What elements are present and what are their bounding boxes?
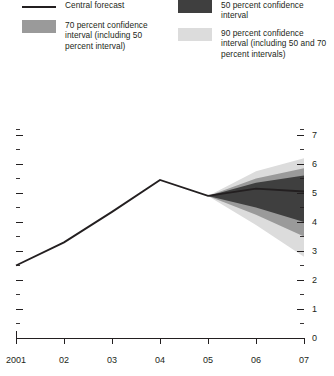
y-axis-tick-label: 5	[312, 188, 317, 198]
fan-chart-svg: 012345672001020304050607	[0, 84, 334, 376]
fan-chart-figure: Central forecast 70 percent confidence i…	[0, 0, 334, 376]
legend-label-central-forecast: Central forecast	[65, 0, 124, 10]
x-axis-tick-label: 06	[251, 355, 261, 365]
legend-item-central-forecast: Central forecast	[22, 0, 172, 13]
ci-70-swatch-icon	[22, 20, 56, 33]
legend-column-right: 50 percent confidence interval 90 percen…	[178, 0, 330, 66]
legend-label-ci-50: 50 percent confidence interval	[221, 0, 330, 21]
x-axis-tick-label: 04	[155, 355, 165, 365]
y-axis-tick-label: 6	[312, 159, 317, 169]
legend-item-ci-50: 50 percent confidence interval	[178, 0, 330, 21]
x-axis-tick-label: 05	[203, 355, 213, 365]
y-axis-tick-label: 2	[312, 275, 317, 285]
legend-label-ci-70: 70 percent confidence interval (includin…	[65, 20, 172, 51]
legend-label-ci-90: 90 percent confidence interval (includin…	[221, 28, 330, 59]
legend-item-ci-90: 90 percent confidence interval (includin…	[178, 28, 330, 59]
y-axis-tick-label: 3	[312, 246, 317, 256]
x-axis-tick-label: 07	[299, 355, 309, 365]
x-axis-tick-label: 03	[107, 355, 117, 365]
ci-90-swatch-icon	[178, 28, 212, 41]
x-axis-tick-label: 02	[59, 355, 69, 365]
y-axis-tick-label: 7	[312, 130, 317, 140]
legend-column-left: Central forecast 70 percent confidence i…	[22, 0, 172, 58]
y-axis-tick-label: 0	[312, 333, 317, 343]
legend-item-ci-70: 70 percent confidence interval (includin…	[22, 20, 172, 51]
ci-50-swatch-icon	[178, 0, 212, 13]
central-forecast-line-icon	[22, 0, 56, 13]
y-axis-tick-label: 1	[312, 304, 317, 314]
chart-legend: Central forecast 70 percent confidence i…	[0, 0, 334, 84]
y-axis-tick-label: 4	[312, 217, 317, 227]
chart-plot-area: 012345672001020304050607	[0, 84, 334, 376]
x-axis-tick-label: 2001	[6, 355, 26, 365]
